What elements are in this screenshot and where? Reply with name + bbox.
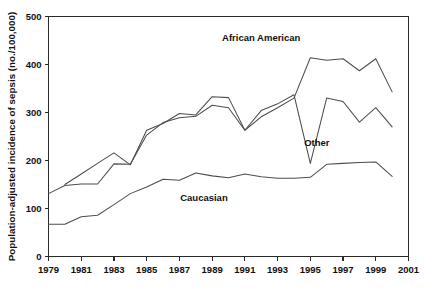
series-label-caucasian: Caucasian xyxy=(180,192,228,203)
y-axis-tick-label: 400 xyxy=(26,59,42,70)
x-axis-tick-label: 2001 xyxy=(398,264,420,275)
x-axis-tick-label: 1979 xyxy=(38,264,59,275)
x-axis-tick-label: 1987 xyxy=(169,264,190,275)
y-axis-tick-label: 300 xyxy=(26,107,42,118)
y-axis-title: Population-adjusted incidence of sepsis … xyxy=(6,12,17,261)
sepsis-incidence-line-chart: 0100200300400500197919811983198519871989… xyxy=(0,0,426,290)
x-axis-tick-label: 1981 xyxy=(71,264,93,275)
x-axis-tick-label: 1997 xyxy=(332,264,353,275)
x-axis-tick-label: 1989 xyxy=(202,264,223,275)
y-axis-tick-label: 100 xyxy=(26,203,42,214)
x-axis-tick-label: 1983 xyxy=(103,264,124,275)
series-label-other: Other xyxy=(304,137,330,148)
x-axis-tick-label: 1999 xyxy=(365,264,386,275)
y-axis-tick-label: 200 xyxy=(26,155,42,166)
y-axis-tick-label: 500 xyxy=(26,11,42,22)
plot-frame xyxy=(49,17,409,257)
x-axis-tick-label: 1991 xyxy=(234,264,256,275)
x-axis-tick-label: 1995 xyxy=(300,264,322,275)
x-axis-tick-label: 1985 xyxy=(136,264,158,275)
y-axis-tick-label: 0 xyxy=(36,251,41,262)
series-line-african-american xyxy=(49,58,393,194)
chart-container: 0100200300400500197919811983198519871989… xyxy=(0,0,426,290)
x-axis-tick-label: 1993 xyxy=(267,264,288,275)
series-label-african-american: African American xyxy=(222,32,301,43)
